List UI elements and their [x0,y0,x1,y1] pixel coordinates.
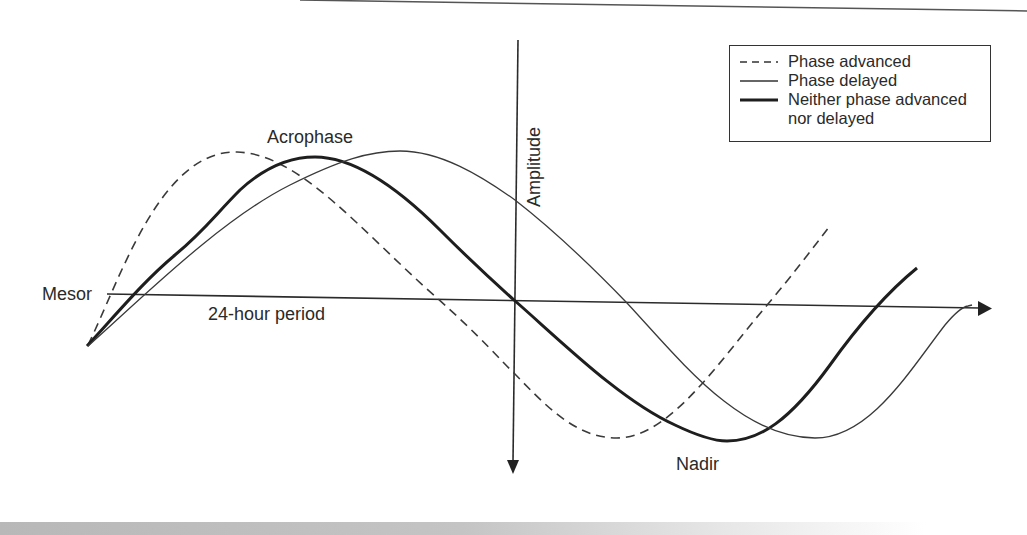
legend: Phase advanced Phase delayed Neither pha… [729,45,991,142]
legend-label: Neither phase advanced [788,90,967,109]
diagram-canvas: Acrophase Mesor 24-hour period Amplitude… [0,0,1027,535]
time-axis-arrowhead-icon [978,301,992,316]
dashed-line-icon [740,57,778,67]
legend-label: Phase advanced [788,52,911,71]
legend-label: nor delayed [788,109,874,128]
amplitude-label: Amplitude [524,127,545,207]
amplitude-axis-arrowhead-icon [507,460,519,474]
mesor-label: Mesor [42,285,92,303]
acrophase-label: Acrophase [267,128,353,146]
page-edge-line [300,0,1027,11]
legend-item-phase-delayed: Phase delayed [730,71,897,90]
amplitude-axis-line [513,40,518,462]
legend-label: Phase delayed [788,71,897,90]
period-label: 24-hour period [208,305,325,323]
neither-curve [87,157,917,441]
legend-item-phase-advanced: Phase advanced [730,52,911,71]
legend-item-neither: Neither phase advanced [730,90,967,109]
nadir-label: Nadir [676,455,719,473]
legend-spacer [740,114,778,124]
page-bottom-band [0,522,1027,535]
thin-line-icon [740,76,778,86]
thick-line-icon [740,95,778,105]
legend-item-neither-continued: nor delayed [730,109,874,128]
